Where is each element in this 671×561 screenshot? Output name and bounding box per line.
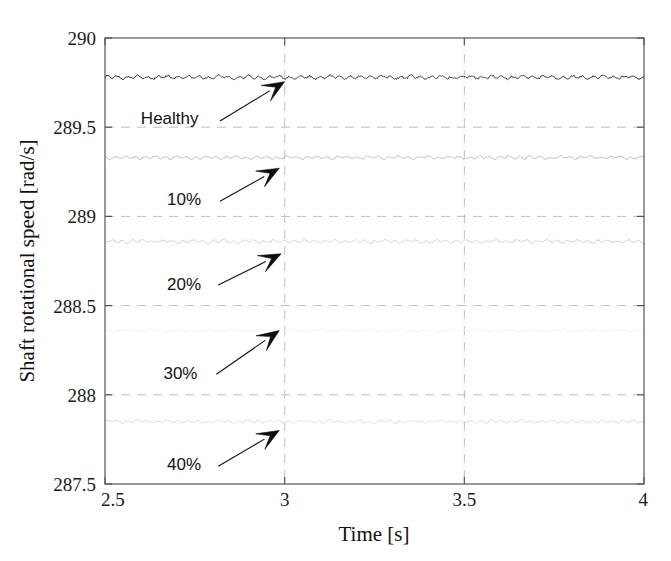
x-tick-label: 3 <box>280 489 290 510</box>
y-tick-label: 288.5 <box>53 296 96 317</box>
x-tick-label: 4 <box>639 489 649 510</box>
chart-canvas: 2.533.54 287.5288288.5289289.5290 Health… <box>0 0 671 561</box>
annotation-label-healthy: Healthy <box>141 109 199 128</box>
y-tick-label: 287.5 <box>53 474 96 495</box>
annotation-label-20pct: 20% <box>167 275 201 294</box>
annotation-label-30pct: 30% <box>163 364 197 383</box>
y-tick-label: 289.5 <box>53 117 96 138</box>
x-tick-label: 3.5 <box>452 489 476 510</box>
annotation-label-10pct: 10% <box>167 190 201 209</box>
y-axis-title: Shaft rotational speed [rad/s] <box>15 139 39 382</box>
x-tick-label: 2.5 <box>101 489 125 510</box>
figure-background <box>0 0 671 561</box>
y-tick-label: 290 <box>68 28 97 49</box>
annotation-label-40pct: 40% <box>167 455 201 474</box>
y-tick-label: 289 <box>68 206 97 227</box>
figure-root: 2.533.54 287.5288288.5289289.5290 Health… <box>0 0 671 561</box>
y-tick-label: 288 <box>68 385 97 406</box>
x-axis-title: Time [s] <box>339 522 410 546</box>
